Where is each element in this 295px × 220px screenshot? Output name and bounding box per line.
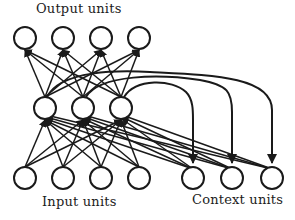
output-unit-4[interactable] (128, 27, 150, 49)
input-units-label: Input units (42, 194, 117, 209)
input-unit-1[interactable] (14, 167, 36, 189)
conn-c1-h1 (46, 119, 193, 169)
hidden-unit-3[interactable] (110, 97, 132, 119)
conn-c3-h1 (46, 115, 272, 169)
conn-h3-o3 (101, 50, 121, 97)
neural-network-diagram: Output units Input units Context units (0, 0, 295, 220)
output-unit-3[interactable] (90, 27, 112, 49)
connections-context-to-hidden (46, 115, 272, 169)
connections-hidden-to-output (25, 50, 139, 97)
conn-h3-o1 (25, 50, 121, 97)
context-unit-2[interactable] (221, 167, 243, 189)
conn-h1-o1 (25, 50, 45, 97)
conn-i1-h1 (25, 120, 45, 167)
context-units-group (182, 167, 283, 189)
input-unit-2[interactable] (52, 167, 74, 189)
input-units-group (14, 167, 150, 189)
context-units-label: Context units (192, 192, 283, 207)
output-units-label: Output units (36, 1, 122, 16)
output-units-group (14, 27, 150, 49)
hidden-units-group (34, 97, 132, 119)
network-svg (0, 0, 295, 220)
conn-c1-h2 (84, 119, 193, 169)
output-unit-2[interactable] (52, 27, 74, 49)
conn-c3-h3 (122, 115, 272, 169)
hidden-unit-2[interactable] (72, 97, 94, 119)
context-unit-1[interactable] (182, 167, 204, 189)
conn-c2-h2 (84, 117, 232, 169)
output-unit-1[interactable] (14, 27, 36, 49)
input-unit-3[interactable] (90, 167, 112, 189)
hidden-unit-1[interactable] (34, 97, 56, 119)
context-unit-3[interactable] (261, 167, 283, 189)
input-unit-4[interactable] (128, 167, 150, 189)
